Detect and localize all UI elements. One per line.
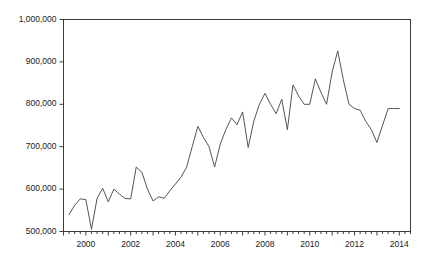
y-tick-label: 500,000 bbox=[26, 227, 57, 236]
x-tick-label: 2008 bbox=[245, 240, 285, 249]
y-tick-label: 900,000 bbox=[26, 57, 57, 66]
y-tick-label: 600,000 bbox=[26, 184, 57, 193]
x-tick-label: 2012 bbox=[335, 240, 375, 249]
x-tick-label: 2014 bbox=[379, 240, 419, 249]
line-chart bbox=[0, 0, 427, 265]
plot-frame bbox=[64, 20, 411, 232]
plot-frame-rect bbox=[64, 20, 411, 232]
x-tick-label: 2010 bbox=[290, 240, 330, 249]
x-axis-minor-ticks bbox=[64, 232, 411, 236]
x-tick-label: 2006 bbox=[200, 240, 240, 249]
y-tick-label: 1,000,000 bbox=[19, 15, 57, 24]
series-1-line bbox=[69, 51, 399, 230]
y-tick-label: 800,000 bbox=[26, 99, 57, 108]
data-series-group bbox=[69, 51, 399, 230]
y-axis-ticks bbox=[60, 20, 64, 232]
x-tick-label: 2002 bbox=[111, 240, 151, 249]
y-tick-label: 700,000 bbox=[26, 142, 57, 151]
x-tick-label: 2000 bbox=[66, 240, 106, 249]
x-tick-label: 2004 bbox=[155, 240, 195, 249]
chart-container: 500,000600,000700,000800,000900,0001,000… bbox=[0, 0, 427, 265]
